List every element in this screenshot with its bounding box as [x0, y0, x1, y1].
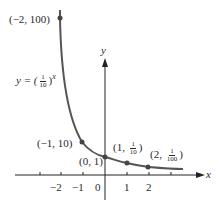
function-fraction-den: 10: [38, 82, 47, 89]
function-exponent: x: [52, 72, 56, 81]
y-axis-arrow-icon: [102, 58, 108, 67]
point-neg1-10: [80, 140, 85, 145]
tick-label-neg1: −1: [72, 182, 84, 193]
tick-label-1: 1: [124, 182, 130, 193]
point-0-1: [103, 155, 108, 160]
function-fraction: 110: [38, 74, 47, 89]
point-label-neg1-10: (−1, 10): [37, 138, 73, 149]
exponential-plot: [0, 0, 219, 210]
point-label-0-1: (0, 1): [79, 156, 103, 167]
point-label-1-tenth: (1, 110): [113, 141, 142, 156]
point-label-1-prefix: (1,: [113, 141, 128, 153]
function-label-prefix: y = (: [16, 74, 37, 86]
point-label-1-den: 10: [129, 149, 138, 156]
y-axis-label: y: [101, 45, 106, 56]
tick-label-2: 2: [146, 182, 152, 193]
point-label-1-suffix: ): [139, 141, 143, 153]
function-label: y = (110)x: [16, 73, 56, 89]
point-label-2-suffix: ): [179, 148, 183, 160]
point-label-neg2-100: (−2, 100): [9, 14, 50, 25]
tick-label-0: 0: [95, 182, 101, 193]
point-1-tenth: [125, 161, 130, 166]
point-2-hundredth: [146, 165, 151, 170]
x-axis-label: x: [206, 169, 211, 180]
point-neg2-100: [58, 16, 63, 21]
point-label-2-fraction: 1100: [166, 148, 179, 163]
point-label-1-fraction: 110: [129, 141, 138, 156]
tick-label-neg2: −2: [50, 182, 62, 193]
point-label-2-den: 100: [166, 156, 179, 163]
point-label-2-prefix: (2,: [150, 148, 165, 160]
point-label-2-hundredth: (2, 1100): [150, 148, 183, 163]
x-axis-arrow-icon: [196, 172, 205, 178]
